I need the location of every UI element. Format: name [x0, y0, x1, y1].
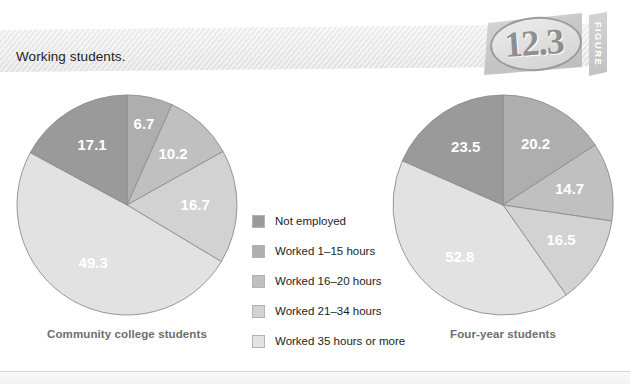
pie-value-label: 52.8 — [445, 248, 474, 265]
figure-number: 12.3 — [489, 17, 580, 69]
pie-value-label: 16.7 — [181, 196, 210, 213]
pie-value-label: 14.7 — [555, 180, 584, 197]
chart-legend: Not employedWorked 1–15 hoursWorked 16–2… — [252, 206, 402, 356]
pie-chart-four-year: 20.214.716.552.823.5 Four-year students — [388, 92, 618, 340]
legend-label: Worked 35 hours or more — [275, 335, 405, 347]
pie-svg-four-year: 20.214.716.552.823.5 — [388, 92, 618, 324]
pie-value-label: 23.5 — [451, 138, 480, 155]
legend-swatch-icon — [252, 305, 265, 318]
pie-chart-community-college: 6.710.216.749.317.1 Community college st… — [12, 92, 242, 340]
legend-swatch-icon — [252, 215, 265, 228]
pie-slices-four-year — [393, 95, 613, 315]
legend-swatch-icon — [252, 275, 265, 288]
legend-row: Worked 16–20 hours — [252, 266, 402, 296]
legend-swatch-icon — [252, 335, 265, 348]
pie-caption-community-college: Community college students — [12, 328, 242, 340]
legend-label: Not employed — [275, 215, 346, 227]
pie-svg-community-college: 6.710.216.749.317.1 — [12, 92, 242, 324]
figure-title: Working students. — [16, 49, 126, 64]
bottom-band — [0, 372, 630, 384]
legend-row: Worked 1–15 hours — [252, 236, 402, 266]
pie-value-label: 20.2 — [521, 135, 550, 152]
legend-label: Worked 16–20 hours — [275, 275, 382, 287]
pie-value-label: 17.1 — [77, 136, 106, 153]
pie-value-label: 6.7 — [134, 115, 155, 132]
legend-label: Worked 21–34 hours — [275, 305, 382, 317]
legend-row: Worked 21–34 hours — [252, 296, 402, 326]
pie-value-label: 16.5 — [546, 231, 575, 248]
legend-swatch-icon — [252, 245, 265, 258]
figure-word-tab: FIGURE — [589, 12, 607, 76]
figure-word-label: FIGURE — [593, 22, 604, 66]
legend-row: Worked 35 hours or more — [252, 326, 402, 356]
pie-caption-four-year: Four-year students — [388, 328, 618, 340]
legend-label: Worked 1–15 hours — [275, 245, 375, 257]
pie-value-label: 49.3 — [79, 254, 108, 271]
legend-row: Not employed — [252, 206, 402, 236]
charts-area: 6.710.216.749.317.1 Community college st… — [0, 88, 630, 358]
pie-value-label: 10.2 — [158, 145, 187, 162]
